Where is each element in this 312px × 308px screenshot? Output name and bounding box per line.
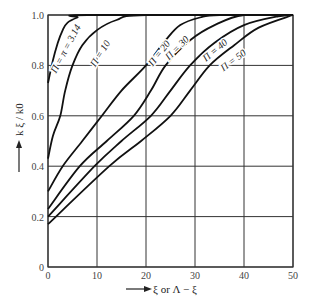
y-arrowhead-icon xyxy=(16,140,22,148)
x-tick: 40 xyxy=(239,270,249,281)
x-axis-label: ξ or Λ − ξ xyxy=(126,283,197,296)
chart: Π = π = 3.14Π = π = 3.14Π = 10Π = 10Π = … xyxy=(0,0,312,308)
x-arrowhead-icon xyxy=(144,286,152,292)
x-tick: 50 xyxy=(288,270,298,281)
y-label: k ξ / k0 xyxy=(13,103,26,136)
curve-label: Π = π = 3.14 xyxy=(48,23,83,76)
curve-label: Π = 10 xyxy=(87,38,112,69)
y-tick: 0.4 xyxy=(32,161,45,172)
y-tick: 1.0 xyxy=(32,10,45,21)
y-axis-label: k ξ / k0 xyxy=(13,103,26,172)
x-tick: 0 xyxy=(46,270,51,281)
y-tick: 0 xyxy=(39,262,44,273)
y-tick: 0.8 xyxy=(32,60,45,71)
x-tick: 10 xyxy=(92,270,102,281)
x-tick-labels: 01020304050 xyxy=(46,270,299,281)
y-tick: 0.6 xyxy=(32,111,45,122)
y-tick: 0.2 xyxy=(32,212,45,223)
x-tick: 20 xyxy=(141,270,151,281)
x-label: ξ or Λ − ξ xyxy=(153,283,197,296)
x-tick: 30 xyxy=(190,270,200,281)
curve-labels: Π = π = 3.14Π = π = 3.14Π = 10Π = 10Π = … xyxy=(48,23,248,76)
y-tick-labels: 00.20.40.60.81.0 xyxy=(32,10,45,273)
